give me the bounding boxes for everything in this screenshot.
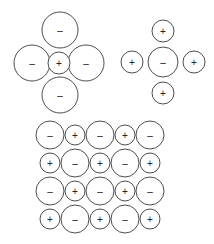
left-cation-sign: + xyxy=(129,57,135,68)
right-cation-sign: + xyxy=(191,57,197,68)
top-cation: + xyxy=(152,20,174,42)
ionic-diagram-figure: −−−−+ ++++− ++++++++++−−−−−−−−−− xyxy=(0,0,214,244)
right-cation: + xyxy=(183,51,205,73)
center-cation: + xyxy=(48,52,70,74)
lattice-ion-r2-c1-sign: + xyxy=(47,158,53,169)
lattice-ion-r3-c3: − xyxy=(86,177,114,205)
lattice-ion-r1-c5: − xyxy=(136,121,164,149)
cation-surrounded-by-anions: −−−−+ xyxy=(14,12,104,113)
lattice-ion-r4-c4: − xyxy=(111,205,139,233)
bottom-anion: − xyxy=(42,77,78,113)
lattice-ion-r3-c5: − xyxy=(136,177,164,205)
lattice-ion-r4-c5-sign: + xyxy=(147,214,153,225)
lattice-ion-r2-c4-sign: − xyxy=(122,158,129,170)
lattice-ion-r2-c3-sign: + xyxy=(97,158,103,169)
lattice-ion-r1-c4: + xyxy=(115,125,135,145)
lattice-ion-r1-c5-sign: − xyxy=(147,130,154,142)
top-anion: − xyxy=(42,12,78,48)
anion-surrounded-by-cations: ++++− xyxy=(121,20,205,104)
lattice-ion-r2-c5: + xyxy=(140,153,160,173)
left-cation: + xyxy=(121,51,143,73)
lattice-ion-r2-c2-sign: − xyxy=(72,158,79,170)
lattice-ion-r1-c2: + xyxy=(65,125,85,145)
lattice-ion-r2-c1: + xyxy=(40,153,60,173)
lattice-ion-r1-c2-sign: + xyxy=(72,130,78,141)
lattice-ion-r3-c5-sign: − xyxy=(147,186,154,198)
lattice-ion-r4-c3: + xyxy=(90,209,110,229)
lattice-ion-r4-c3-sign: + xyxy=(97,214,103,225)
lattice-ion-r4-c5: + xyxy=(140,209,160,229)
center-cation-sign: + xyxy=(56,58,62,69)
lattice-ion-r1-c3: − xyxy=(86,121,114,149)
center-anion: − xyxy=(148,47,178,77)
lattice-ion-r4-c4-sign: − xyxy=(122,214,129,226)
lattice-ion-r4-c2-sign: − xyxy=(72,214,79,226)
lattice-ion-r3-c3-sign: − xyxy=(97,186,104,198)
lattice-ion-r3-c4: + xyxy=(115,181,135,201)
lattice-ion-r2-c3: + xyxy=(90,153,110,173)
bottom-anion-sign: − xyxy=(57,90,64,102)
bottom-cation-sign: + xyxy=(160,88,166,99)
center-anion-sign: − xyxy=(160,57,167,69)
left-anion-sign: − xyxy=(29,58,36,70)
lattice-ion-r2-c2: − xyxy=(61,149,89,177)
lattice-ion-r3-c4-sign: + xyxy=(122,186,128,197)
right-anion: − xyxy=(68,45,104,81)
ionic-diagram-canvas: −−−−+ ++++− ++++++++++−−−−−−−−−− xyxy=(0,0,214,244)
lattice-ion-r4-c2: − xyxy=(61,205,89,233)
lattice-ion-r3-c2-sign: + xyxy=(72,186,78,197)
right-anion-sign: − xyxy=(83,58,90,70)
lattice-ion-r2-c5-sign: + xyxy=(147,158,153,169)
lattice-ion-r4-c1-sign: + xyxy=(47,214,53,225)
ionic-lattice: ++++++++++−−−−−−−−−− xyxy=(36,121,164,233)
lattice-ion-r4-c1: + xyxy=(40,209,60,229)
left-anion: − xyxy=(14,45,50,81)
lattice-ion-r1-c1-sign: − xyxy=(47,130,54,142)
lattice-ion-r2-c4: − xyxy=(111,149,139,177)
top-anion-sign: − xyxy=(57,25,64,37)
top-cation-sign: + xyxy=(160,26,166,37)
lattice-ion-r1-c1: − xyxy=(36,121,64,149)
lattice-ion-r1-c3-sign: − xyxy=(97,130,104,142)
lattice-ion-r1-c4-sign: + xyxy=(122,130,128,141)
lattice-ion-r3-c1: − xyxy=(36,177,64,205)
lattice-ion-r3-c1-sign: − xyxy=(47,186,54,198)
lattice-ion-r3-c2: + xyxy=(65,181,85,201)
bottom-cation: + xyxy=(152,82,174,104)
